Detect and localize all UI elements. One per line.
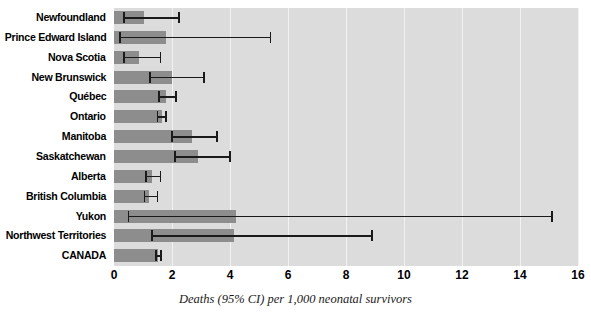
error-bar-cap-low [157, 111, 159, 122]
category-label: Newfoundland [36, 11, 106, 24]
error-bar-cap-high [371, 230, 373, 241]
category-label: New Brunswick [31, 71, 106, 84]
error-bar-cap-low [145, 171, 147, 182]
error-bar-cap-high [160, 250, 162, 261]
error-bar-line [124, 17, 179, 19]
error-bar-line [152, 235, 372, 237]
bar-row [114, 71, 578, 84]
x-tick-label: 16 [571, 268, 584, 282]
error-bar-cap-low [119, 32, 121, 43]
category-label: British Columbia [26, 190, 106, 203]
error-bar-cap-high [160, 171, 162, 182]
error-bar-line [146, 176, 161, 178]
error-bar-cap-low [174, 151, 176, 162]
x-tick-label: 14 [513, 268, 526, 282]
error-bar-cap-high [160, 52, 162, 63]
category-axis-labels: NewfoundlandPrince Edward IslandNova Sco… [0, 8, 110, 266]
bar-row [114, 90, 578, 103]
error-bar-cap-high [551, 211, 553, 222]
category-label: Alberta [71, 170, 106, 183]
error-bar-cap-high [203, 72, 205, 83]
category-label: Manitoba [62, 130, 106, 143]
category-label: Yukon [76, 210, 106, 223]
category-label: Northwest Territories [6, 229, 106, 242]
bar [114, 249, 158, 262]
error-bar-cap-low [128, 211, 130, 222]
error-bar-cap-low [151, 230, 153, 241]
x-tick-label: 4 [227, 268, 234, 282]
error-bar-cap-high [165, 111, 167, 122]
error-bar-line [124, 57, 160, 59]
x-tick-label: 0 [111, 268, 118, 282]
error-bar-line [129, 216, 552, 218]
gridline [578, 8, 579, 266]
bar-row [114, 210, 578, 223]
error-bar-cap-low [158, 91, 160, 102]
bar-row [114, 229, 578, 242]
error-bar-cap-high [216, 131, 218, 142]
category-label: Québec [69, 90, 106, 103]
bar-row [114, 190, 578, 203]
x-tick-label: 6 [285, 268, 292, 282]
error-bar-cap-low [123, 52, 125, 63]
error-bar-line [159, 96, 176, 98]
bar-row [114, 150, 578, 163]
category-label: Prince Edward Island [4, 31, 106, 44]
x-tick-label: 2 [169, 268, 176, 282]
error-bar-cap-high [157, 191, 159, 202]
bar-row [114, 249, 578, 262]
bar-row [114, 130, 578, 143]
bar-row [114, 51, 578, 64]
bar-row [114, 11, 578, 24]
error-bar-cap-high [229, 151, 231, 162]
error-bar-cap-low [171, 131, 173, 142]
error-bar-cap-low [155, 250, 157, 261]
error-bar-line [150, 77, 204, 79]
category-label: Ontario [70, 110, 106, 123]
x-tick-label: 12 [455, 268, 468, 282]
category-label: CANADA [62, 249, 106, 262]
error-bar-line [172, 136, 217, 138]
error-bar-line [144, 196, 157, 198]
error-bar-cap-low [144, 191, 146, 202]
error-bar-cap-high [175, 91, 177, 102]
neonatal-mortality-chart: NewfoundlandPrince Edward IslandNova Sco… [0, 0, 591, 316]
x-tick-label: 10 [397, 268, 410, 282]
x-tick-label: 8 [343, 268, 350, 282]
category-label: Nova Scotia [48, 51, 106, 64]
bar-row [114, 31, 578, 44]
error-bar-cap-low [149, 72, 151, 83]
bar [114, 110, 162, 123]
error-bar-cap-low [123, 12, 125, 23]
error-bar-cap-high [270, 32, 272, 43]
bar-row [114, 170, 578, 183]
bar-row [114, 110, 578, 123]
x-axis-title: Deaths (95% CI) per 1,000 neonatal survi… [0, 292, 591, 307]
error-bar-line [120, 37, 271, 39]
plot-area [114, 8, 578, 266]
error-bar-cap-high [178, 12, 180, 23]
error-bar-line [175, 156, 230, 158]
category-label: Saskatchewan [36, 150, 106, 163]
x-axis-tick-labels: 0246810121416 [114, 266, 578, 288]
